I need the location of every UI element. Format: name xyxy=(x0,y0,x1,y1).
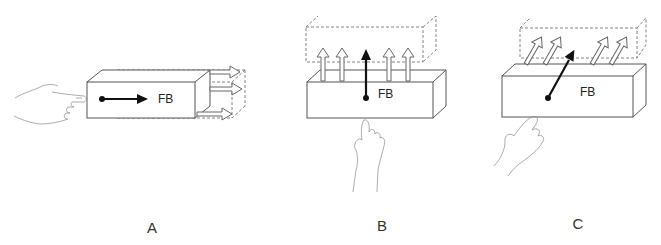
hand-icon xyxy=(353,120,385,192)
panel-b-figure xyxy=(306,16,446,192)
force-label-b: FB xyxy=(378,87,393,101)
hollow-arrows xyxy=(521,34,632,67)
panel-label-c: C xyxy=(573,215,584,232)
panel-a-figure xyxy=(14,66,245,124)
panel-label-b: B xyxy=(377,217,387,234)
block xyxy=(87,70,210,118)
panel-c-figure xyxy=(494,18,646,176)
hand-icon xyxy=(494,116,544,176)
block xyxy=(502,64,646,117)
hand-icon xyxy=(14,85,86,125)
block xyxy=(307,70,446,118)
diagram-canvas xyxy=(0,0,661,245)
force-label-a: FB xyxy=(158,92,173,106)
force-label-c: FB xyxy=(580,85,595,99)
panel-label-a: A xyxy=(147,219,157,236)
